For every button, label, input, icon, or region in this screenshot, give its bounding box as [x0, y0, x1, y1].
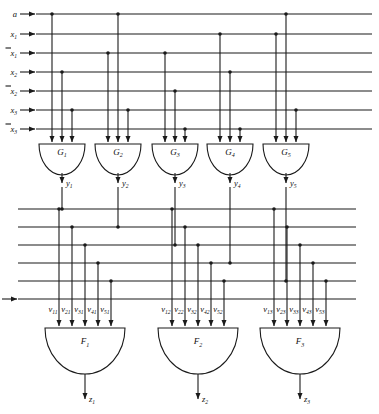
junction-dot	[183, 127, 187, 131]
junction-dot	[209, 261, 213, 265]
input-label-x3: x3	[9, 105, 17, 116]
and-out-label-y4: y4	[233, 178, 241, 189]
junction-dot	[83, 243, 87, 247]
junction-dot	[324, 279, 328, 283]
junction-dot	[196, 243, 200, 247]
or-input-label-v11: v11	[49, 304, 58, 315]
input-label-a: a	[13, 9, 17, 19]
junction-dot	[126, 108, 130, 112]
input-label-x2: x2	[9, 67, 17, 78]
or-input-label-v23: v23	[276, 304, 286, 315]
output-label-z1: z1	[88, 394, 95, 405]
or-input-label-v12: v12	[161, 304, 171, 315]
junction-dot	[163, 51, 167, 55]
and-out-label-y1: y1	[65, 178, 73, 189]
junction-dot	[70, 108, 74, 112]
or-gate-F3[interactable]	[260, 328, 340, 374]
junction-dot	[57, 207, 61, 211]
and-out-label-y5: y5	[289, 178, 297, 189]
junction-dot	[70, 225, 74, 229]
input-label-x1b: x1	[9, 48, 17, 59]
input-label-x3b: x3	[9, 124, 17, 135]
junction-dot	[294, 108, 298, 112]
or-input-label-v41: v41	[87, 304, 97, 315]
or-gate-F1[interactable]	[45, 328, 125, 374]
and-out-label-y3: y3	[178, 178, 186, 189]
junction-dot	[222, 279, 226, 283]
junction-dot	[109, 279, 113, 283]
junction-dot	[170, 207, 174, 211]
junction-dot	[238, 127, 242, 131]
or-gate-row: F1F2F3	[45, 328, 340, 374]
and-gate-input-wires	[50, 12, 298, 142]
junction-dot	[284, 12, 288, 16]
logic-circuit-diagram: ax1x1x2x2x3x3 G1y1G2y2G3y3G4y4G5y5 b v11…	[0, 0, 379, 414]
junction-dot	[228, 261, 232, 265]
top-input-bus	[20, 14, 372, 129]
junction-dot	[285, 225, 289, 229]
junction-dot	[116, 225, 120, 229]
or-input-label-v53: v53	[315, 304, 325, 315]
or-input-label-v42: v42	[200, 304, 210, 315]
intermediate-y-bus	[2, 187, 356, 299]
or-input-label-v21: v21	[61, 304, 71, 315]
junction-dot	[228, 70, 232, 74]
input-label-x2b: x2	[9, 86, 17, 97]
or-input-label-v43: v43	[302, 304, 312, 315]
junction-dot	[274, 32, 278, 36]
junction-dot	[173, 243, 177, 247]
and-gate-row: G1y1G2y2G3y3G4y4G5y5	[39, 144, 309, 189]
output-label-z3: z3	[303, 394, 310, 405]
output-label-z2: z2	[201, 394, 208, 405]
or-input-label-v22: v22	[174, 304, 184, 315]
or-input-label-v32: v32	[187, 304, 197, 315]
junction-dot	[298, 243, 302, 247]
or-input-label-v33: v33	[289, 304, 299, 315]
junction-dot	[96, 261, 100, 265]
junction-dot	[173, 89, 177, 93]
input-label-x1: x1	[9, 29, 17, 40]
or-input-label-v13: v13	[263, 304, 273, 315]
junction-dot	[60, 70, 64, 74]
or-input-label-v51: v51	[100, 304, 110, 315]
and-out-label-y2: y2	[121, 178, 129, 189]
junction-dot	[311, 261, 315, 265]
or-input-label-v31: v31	[74, 304, 84, 315]
junction-dot	[106, 51, 110, 55]
junction-dot	[116, 12, 120, 16]
or-gate-F2[interactable]	[158, 328, 238, 374]
junction-dot	[183, 225, 187, 229]
junction-dot	[50, 12, 54, 16]
junction-dot	[272, 207, 276, 211]
junction-dot	[218, 32, 222, 36]
or-input-label-v52: v52	[213, 304, 223, 315]
output-wires: z1z2z3	[85, 374, 310, 405]
top-input-labels: ax1x1x2x2x3x3	[6, 9, 18, 135]
